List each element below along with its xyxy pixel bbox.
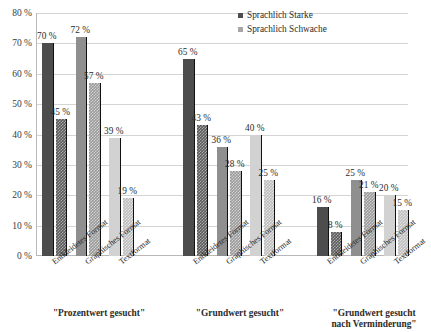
legend-swatch-icon: [238, 27, 243, 32]
bar: [197, 125, 209, 256]
bar-value-label: 28 %: [222, 160, 248, 169]
legend-swatch-icon: [238, 13, 243, 18]
bar-value-label: 25 %: [255, 169, 281, 178]
x-axis-group-label: "Grundwert gesuchtnach Verminderung": [299, 308, 431, 330]
y-axis-tick-label: 10 %: [0, 222, 32, 232]
bar-value-label: 8 %: [322, 221, 348, 230]
bar-value-label: 16 %: [309, 196, 335, 205]
bar-value-label: 57 %: [81, 72, 107, 81]
x-axis-group-label: "Grundwert gesucht": [165, 308, 315, 319]
bar-value-label: 15 %: [389, 199, 415, 208]
bar-value-label: 70 %: [34, 32, 60, 41]
group-label-line: "Grundwert gesucht: [299, 308, 431, 319]
y-axis-tick-label: 50 %: [0, 100, 32, 110]
y-axis-tick-label: 20 %: [0, 191, 32, 201]
legend-label: Sprachlich Starke: [247, 8, 313, 22]
gridline: [37, 13, 408, 14]
bar-value-label: 39 %: [101, 127, 127, 136]
bar-value-label: 40 %: [242, 124, 268, 133]
y-axis-tick-label: 0 %: [0, 252, 32, 262]
bar-value-label: 65 %: [175, 48, 201, 57]
bar-value-label: 20 %: [376, 184, 402, 193]
bar: [42, 43, 54, 256]
bar-value-label: 72 %: [67, 26, 93, 35]
legend-label: Sprachlich Schwache: [247, 22, 327, 36]
bar: [183, 59, 195, 256]
bar: [230, 171, 242, 256]
y-axis-tick-label: 80 %: [0, 9, 32, 19]
group-label-line: nach Verminderung": [299, 319, 431, 330]
bar-value-label: 25 %: [342, 169, 368, 178]
legend-item-sprachlich-schwache[interactable]: Sprachlich Schwache: [238, 22, 327, 36]
x-axis-group-label: "Prozentwert gesucht": [24, 308, 174, 319]
bar-value-label: 36 %: [208, 136, 234, 145]
bar: [317, 207, 329, 256]
y-axis-tick-label: 30 %: [0, 161, 32, 171]
bar: [56, 119, 68, 256]
gridline: [37, 43, 408, 44]
legend-item-sprachlich-starke[interactable]: Sprachlich Starke: [238, 8, 327, 22]
y-axis-tick-label: 40 %: [0, 131, 32, 141]
bar-value-label: 19 %: [114, 187, 140, 196]
y-axis-tick-label: 60 %: [0, 70, 32, 80]
bar: [264, 180, 276, 256]
bar-value-label: 45 %: [47, 108, 73, 117]
legend: Sprachlich Starke Sprachlich Schwache: [238, 8, 327, 36]
y-axis-tick-label: 70 %: [0, 39, 32, 49]
bar-value-label: 43 %: [188, 114, 214, 123]
